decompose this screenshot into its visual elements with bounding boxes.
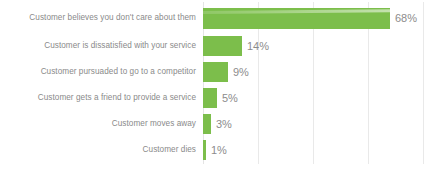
category-label: Customer believes you don't care about t… (0, 5, 196, 31)
bar-group: 5% (203, 85, 238, 111)
bar-group: 68% (203, 5, 417, 31)
bar-group: 3% (203, 111, 232, 137)
bar-row: Customer believes you don't care about t… (0, 5, 437, 31)
bar-row: Customer dies 1% (0, 137, 437, 163)
bar[interactable] (203, 36, 242, 56)
bar-value-label: 5% (222, 93, 238, 104)
category-label: Customer gets a friend to provide a serv… (0, 85, 196, 111)
bar-value-label: 1% (211, 145, 227, 156)
bar-group: 1% (203, 137, 227, 163)
bar-group: 14% (203, 33, 269, 59)
bar-value-label: 9% (233, 67, 249, 78)
bar[interactable] (203, 8, 390, 29)
bar[interactable] (203, 114, 211, 134)
category-label: Customer is dissatisfied with your servi… (0, 33, 196, 59)
bar[interactable] (203, 140, 206, 160)
category-label: Customer pursuaded to go to a competitor (0, 59, 196, 85)
bar-row: Customer moves away 3% (0, 111, 437, 137)
bar[interactable] (203, 88, 217, 108)
bar-value-label: 68% (395, 13, 417, 24)
bar-value-label: 14% (247, 41, 269, 52)
bar[interactable] (203, 62, 228, 82)
bar-row: Customer is dissatisfied with your servi… (0, 33, 437, 59)
category-label: Customer moves away (0, 111, 196, 137)
bar-group: 9% (203, 59, 249, 85)
horizontal-bar-chart: Customer believes you don't care about t… (0, 0, 437, 171)
bar-row: Customer pursuaded to go to a competitor… (0, 59, 437, 85)
bar-row: Customer gets a friend to provide a serv… (0, 85, 437, 111)
category-label: Customer dies (0, 137, 196, 163)
bar-value-label: 3% (216, 119, 232, 130)
